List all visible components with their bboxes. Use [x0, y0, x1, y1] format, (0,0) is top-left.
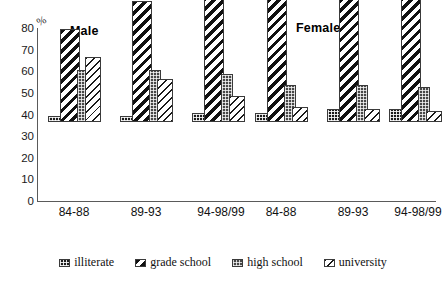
legend-label-high-school: high school [247, 255, 303, 270]
bar-female-84-88-university [292, 107, 308, 122]
legend-label-illiterate: illiterate [74, 255, 114, 270]
bar-female-94-98-99-university [426, 111, 442, 122]
x-label-male-89-93: 89-93 [131, 205, 162, 219]
chart-legend: illiterate grade school high school univ… [0, 255, 446, 270]
x-label-female-89-93: 89-93 [338, 205, 369, 219]
chart-canvas: 80 70 60 50 40 30 20 10 0 % Male Female [0, 0, 446, 282]
bar-group-male-94-98-99 [192, 0, 244, 122]
legend-item-university: university [324, 255, 387, 270]
legend-label-grade-school: grade school [150, 255, 211, 270]
bar-male-84-88-university [85, 57, 101, 122]
bar-group-male-89-93 [120, 0, 172, 122]
legend-item-high-school: high school [232, 255, 303, 270]
bars-layer [0, 0, 446, 202]
x-label-male-84-88: 84-88 [59, 205, 90, 219]
bar-group-female-89-93 [327, 0, 379, 122]
bar-male-89-93-university [157, 79, 173, 122]
swatch-high-school-icon [232, 259, 243, 267]
x-label-female-94-98-99: 94-98/99 [394, 205, 441, 219]
swatch-grade-school-icon [135, 259, 146, 267]
bar-male-94-98-99-university [229, 96, 245, 122]
legend-item-grade-school: grade school [135, 255, 211, 270]
x-label-female-84-88: 84-88 [266, 205, 297, 219]
bar-female-89-93-university [364, 109, 380, 122]
bar-group-female-84-88 [255, 0, 307, 122]
legend-label-university: university [339, 255, 387, 270]
bar-group-female-94-98-99 [389, 0, 441, 122]
bar-group-male-84-88 [48, 0, 100, 122]
swatch-university-icon [324, 259, 335, 267]
x-label-male-94-98-99: 94-98/99 [197, 205, 244, 219]
swatch-illiterate-icon [59, 259, 70, 267]
legend-item-illiterate: illiterate [59, 255, 114, 270]
